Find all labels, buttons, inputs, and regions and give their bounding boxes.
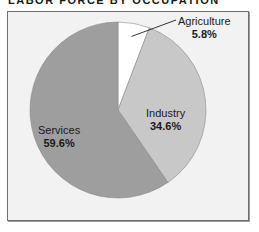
label-agriculture-value: 5.8%	[178, 28, 231, 41]
label-industry-name: Industry	[146, 107, 185, 120]
label-agriculture-name: Agriculture	[178, 15, 231, 28]
label-industry: Industry 34.6%	[146, 107, 185, 133]
label-services-name: Services	[38, 124, 80, 137]
label-services-value: 59.6%	[38, 137, 80, 150]
label-services: Services 59.6%	[38, 124, 80, 150]
label-industry-value: 34.6%	[146, 120, 185, 133]
label-agriculture: Agriculture 5.8%	[178, 15, 231, 41]
